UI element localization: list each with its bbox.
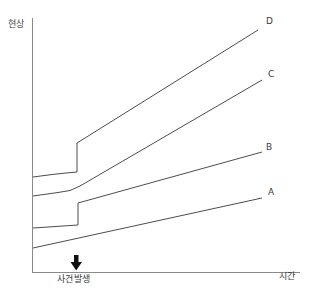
series-label-d: D [266, 17, 273, 26]
event-marker-label: 사건발생 [57, 275, 90, 284]
series-label-b: B [266, 143, 272, 152]
series-line-d [33, 30, 258, 177]
series-label-a: A [268, 188, 274, 197]
y-axis-label: 현상 [8, 20, 25, 29]
x-axis-label: 시간 [279, 272, 296, 281]
series-line-b [33, 152, 262, 228]
chart-figure: 현상 시간 사건발생 A B C D [0, 0, 310, 300]
series-line-a [33, 198, 262, 248]
chart-canvas [0, 0, 310, 300]
series-label-c: C [268, 70, 275, 79]
down-arrow-icon [71, 255, 83, 271]
series-line-c [33, 80, 262, 196]
